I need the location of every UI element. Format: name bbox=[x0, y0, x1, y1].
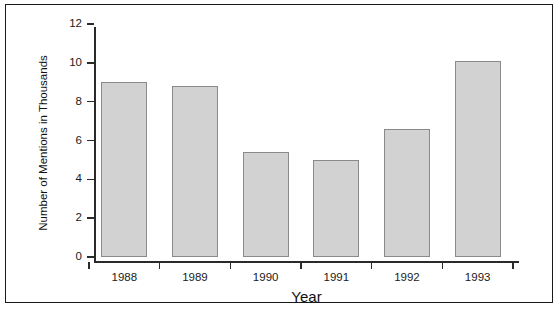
x-axis-tick bbox=[512, 262, 514, 269]
x-axis-title: Year bbox=[94, 288, 519, 305]
x-axis-tick-label: 1992 bbox=[372, 271, 443, 283]
y-axis-tick-label-wrap: 0 bbox=[52, 251, 82, 263]
x-axis-tick-label: 1990 bbox=[230, 271, 301, 283]
x-axis-tick bbox=[88, 262, 90, 269]
y-axis-tick-label-wrap: 2 bbox=[52, 212, 82, 224]
y-axis-tick bbox=[87, 101, 94, 103]
y-axis-tick bbox=[87, 179, 94, 181]
y-axis-tick-label: 6 bbox=[54, 135, 82, 147]
y-axis-tick-label-wrap: 4 bbox=[52, 173, 82, 185]
bar bbox=[455, 61, 501, 257]
x-axis-tick bbox=[371, 262, 373, 269]
y-axis-tick bbox=[87, 140, 94, 142]
x-axis-tick bbox=[159, 262, 161, 269]
y-axis-tick-label-wrap: 12 bbox=[52, 18, 82, 30]
bar bbox=[172, 86, 218, 257]
y-axis-tick-label: 4 bbox=[54, 173, 82, 185]
y-axis-tick-label-wrap: 6 bbox=[52, 135, 82, 147]
y-axis-tick-label: 12 bbox=[54, 18, 82, 30]
y-axis-tick-label: 8 bbox=[54, 96, 82, 108]
bar bbox=[384, 129, 430, 257]
bar bbox=[243, 152, 289, 257]
y-axis-tick bbox=[87, 23, 94, 25]
y-axis-tick-label: 2 bbox=[54, 212, 82, 224]
x-axis-tick bbox=[442, 262, 444, 269]
x-axis-tick bbox=[300, 262, 302, 269]
y-axis-tick bbox=[87, 62, 94, 64]
y-axis-tick-label: 0 bbox=[54, 251, 82, 263]
y-axis-tick-label-wrap: 8 bbox=[52, 96, 82, 108]
bar bbox=[101, 82, 147, 257]
x-axis-line bbox=[94, 261, 519, 263]
y-axis-tick-label-wrap: 10 bbox=[52, 57, 82, 69]
y-axis-line bbox=[94, 27, 96, 262]
y-axis-title: Number of Mentions in Thousands bbox=[37, 28, 49, 258]
y-axis-tick bbox=[87, 217, 94, 219]
x-axis-tick-label: 1991 bbox=[301, 271, 372, 283]
y-axis-tick-label: 10 bbox=[54, 57, 82, 69]
x-axis-tick bbox=[230, 262, 232, 269]
y-axis-tick bbox=[87, 256, 94, 258]
x-axis-tick-label: 1988 bbox=[89, 271, 160, 283]
bar bbox=[313, 160, 359, 257]
x-axis-tick-label: 1989 bbox=[160, 271, 231, 283]
chart-page: Number of Mentions in Thousands 02468101… bbox=[0, 0, 560, 312]
figure-frame: Number of Mentions in Thousands 02468101… bbox=[5, 4, 553, 303]
x-axis-tick-label: 1993 bbox=[442, 271, 513, 283]
